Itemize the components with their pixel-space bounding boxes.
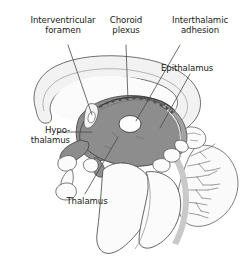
anterior-structures [56, 156, 98, 200]
label-epithalamus: Epithalamus [161, 63, 241, 73]
label-hypothalamus: Hypo- thalamus [8, 125, 70, 146]
optic-chiasm [58, 156, 77, 172]
label-thalamus: Thalamus [56, 196, 118, 206]
label-choroid-plexus: Choroid plexus [98, 15, 154, 36]
mammillary-body [83, 159, 98, 173]
label-interthalamic-adhesion: Interthalamic adhesion [157, 15, 243, 36]
anatomical-figure: Interventricular foramen Choroid plexus … [0, 0, 243, 278]
label-interventricular-foramen: Interventricular foramen [17, 15, 109, 36]
